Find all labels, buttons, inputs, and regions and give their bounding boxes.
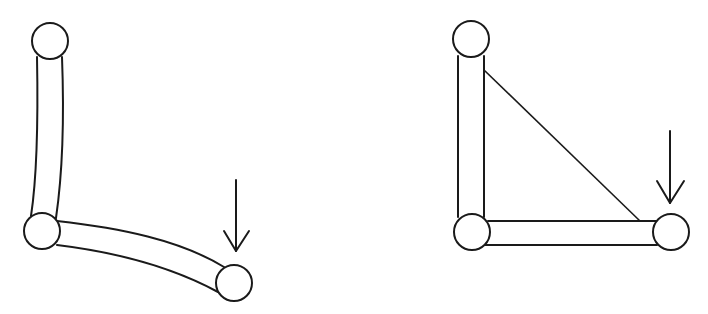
left-frame (24, 23, 252, 301)
diagram-canvas (0, 0, 708, 314)
left-vertical-beam (31, 57, 63, 218)
left-horizontal-beam (57, 221, 224, 292)
left-free-end-joint (216, 265, 252, 301)
right-corner-joint (454, 214, 490, 250)
right-frame (453, 21, 689, 250)
left-corner-joint (24, 213, 60, 249)
structures-diagram (0, 0, 708, 314)
right-free-end-joint (653, 214, 689, 250)
right-horizontal-beam (485, 221, 657, 245)
right-top-joint (453, 21, 489, 57)
right-vertical-beam (458, 56, 484, 217)
right-diagonal-brace (484, 70, 640, 221)
left-top-joint (32, 23, 68, 59)
right-load-arrow-icon (657, 131, 684, 203)
left-load-arrow-icon (224, 180, 249, 251)
